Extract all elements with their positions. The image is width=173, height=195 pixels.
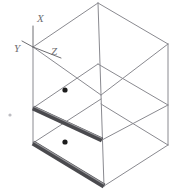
y-axis-line [22,41,33,47]
top-edge-back-right [98,3,168,44]
marker-dot-upper[interactable] [62,87,67,92]
coordinate-axes: X Y Z [14,12,61,58]
top-edge-front-right [101,44,168,95]
upper-shelf-rail-highlight [33,106,102,138]
faint-specks [8,113,11,116]
isometric-box-canvas[interactable]: X Y Z [0,0,173,195]
faint-speck-left [8,113,11,116]
x-axis-label: X [36,12,45,24]
drawing-viewport[interactable]: X Y Z [0,0,173,195]
box-bottom-face [33,99,168,186]
marker-dots[interactable] [62,87,67,144]
upper-shelf-rail[interactable] [33,108,102,140]
shelf-rails[interactable] [33,106,104,186]
y-axis-label: Y [14,42,22,54]
top-edge-back-left [33,3,98,47]
bot-edge-front-right [104,145,168,186]
marker-dot-lower[interactable] [62,139,67,144]
vertical-edge-front [98,3,104,186]
z-axis-label: Z [51,45,58,57]
lower-shelf-rail[interactable] [33,143,104,186]
lower-shelf-rail-highlight [33,141,104,184]
top-edge-front-left [33,47,101,95]
